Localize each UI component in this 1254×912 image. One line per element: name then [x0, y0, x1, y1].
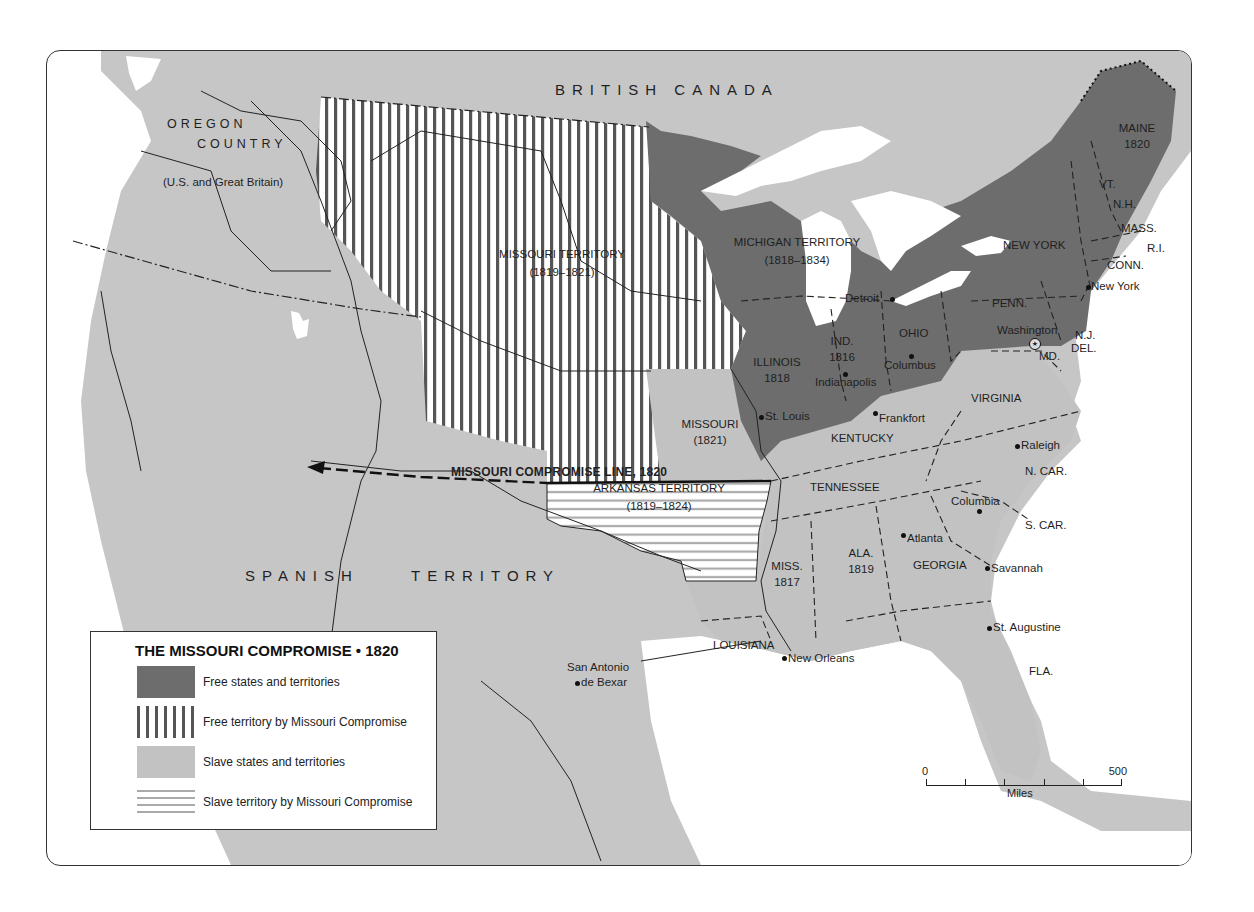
label-conn: CONN.	[1107, 258, 1144, 272]
legend-item-slave-compromise: Slave territory by Missouri Compromise	[137, 786, 412, 818]
label-del: DEL.	[1071, 341, 1097, 355]
label-ind-year: 1816	[829, 350, 855, 364]
label-mass: MASS.	[1121, 221, 1157, 235]
legend-item-slave-states: Slave states and territories	[137, 746, 345, 778]
label-fla: FLA.	[1029, 664, 1053, 678]
label-vt: VT.	[1099, 177, 1116, 191]
label-n-car: N. CAR.	[1025, 464, 1067, 478]
label-michigan-territory-years: (1818–1834)	[764, 253, 829, 267]
label-missouri-territory: MISSOURI TERRITORY	[499, 247, 625, 261]
label-s-car: S. CAR.	[1025, 518, 1067, 532]
label-georgia: GEORGIA	[913, 558, 967, 572]
label-maine-year: 1820	[1124, 137, 1150, 151]
label-missouri-year: (1821)	[693, 433, 726, 447]
city-washington: Washington	[997, 323, 1057, 337]
label-oregon: OREGON	[167, 117, 247, 133]
scale-min: 0	[922, 765, 928, 777]
city-st-augustine: St. Augustine	[993, 620, 1061, 634]
city-atlanta: Atlanta	[907, 531, 943, 545]
label-kentucky: KENTUCKY	[831, 431, 894, 445]
label-spanish: SPANISH	[245, 567, 359, 586]
label-md: MD.	[1039, 349, 1060, 363]
capital-star-icon: ★	[1029, 338, 1041, 350]
city-san-antonio-line2: de Bexar	[581, 675, 627, 689]
label-arkansas-territory: ARKANSAS TERRITORY	[593, 481, 725, 495]
city-detroit: Detroit	[845, 291, 879, 305]
scale-max: 500	[1109, 765, 1127, 777]
label-illinois-year: 1818	[764, 371, 790, 385]
city-indianapolis: Indianapolis	[815, 375, 876, 389]
label-ri: R.I.	[1147, 241, 1165, 255]
city-new-york: New York	[1091, 279, 1140, 293]
label-british-canada: BRITISH CANADA	[555, 81, 779, 100]
label-miss: MISS.	[771, 559, 802, 573]
label-compromise-line: MISSOURI COMPROMISE LINE, 1820	[451, 465, 667, 480]
swatch-solid-light-icon	[137, 746, 195, 778]
city-savannah: Savannah	[991, 561, 1043, 575]
label-ohio: OHIO	[899, 326, 928, 340]
label-territory: TERRITORY	[411, 567, 560, 586]
label-tennessee: TENNESSEE	[810, 480, 880, 494]
legend-item-free-compromise: Free territory by Missouri Compromise	[137, 706, 407, 738]
label-virginia: VIRGINIA	[971, 391, 1021, 405]
label-oregon-note: (U.S. and Great Britain)	[163, 175, 283, 189]
city-st-louis: St. Louis	[765, 409, 810, 423]
scale-bar: 0 500 Miles	[922, 765, 1127, 805]
city-raleigh: Raleigh	[1021, 438, 1060, 452]
swatch-solid-dark-icon	[137, 666, 195, 698]
label-michigan-territory: MICHIGAN TERRITORY	[734, 235, 861, 249]
swatch-vertical-stripes-icon	[137, 706, 195, 738]
label-ind: IND.	[831, 334, 854, 348]
label-miss-year: 1817	[774, 575, 800, 589]
city-columbia: Columbia	[951, 494, 1000, 508]
label-maine: MAINE	[1119, 121, 1155, 135]
label-illinois: ILLINOIS	[753, 355, 800, 369]
label-missouri-territory-years: (1819–1821)	[529, 265, 594, 279]
label-ala: ALA.	[849, 546, 874, 560]
label-arkansas-territory-years: (1819–1824)	[626, 499, 691, 513]
swatch-horizontal-stripes-icon	[137, 786, 195, 818]
label-ala-year: 1819	[848, 562, 874, 576]
legend-item-free-states: Free states and territories	[137, 666, 340, 698]
label-new-york: NEW YORK	[1003, 238, 1065, 252]
label-missouri: MISSOURI	[682, 417, 739, 431]
city-frankfort: Frankfort	[879, 411, 925, 425]
map-legend: THE MISSOURI COMPROMISE • 1820 Free stat…	[90, 631, 437, 830]
legend-title: THE MISSOURI COMPROMISE • 1820	[135, 642, 399, 659]
label-penn: PENN.	[992, 296, 1027, 310]
scale-unit: Miles	[1007, 787, 1033, 799]
city-new-orleans: New Orleans	[788, 651, 854, 665]
label-country: COUNTRY	[197, 137, 287, 153]
city-san-antonio-line1: San Antonio	[567, 660, 629, 674]
label-nh: N.H.	[1113, 197, 1136, 211]
label-louisiana: LOUISIANA	[713, 638, 774, 652]
city-columbus: Columbus	[884, 358, 936, 372]
